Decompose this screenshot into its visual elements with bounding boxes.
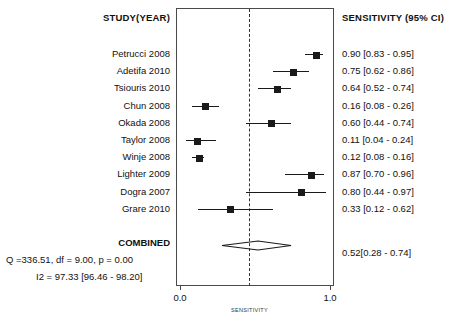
x-axis-title: SENSITIVITY — [231, 307, 268, 313]
study-label: Okada 2008 — [40, 117, 170, 128]
heterogeneity-i2-line: I2 = 97.33 [96.46 - 98.20] — [36, 271, 142, 282]
point-estimate-marker — [202, 103, 209, 110]
point-estimate-marker — [298, 189, 305, 196]
axis-tick — [180, 286, 181, 290]
axis-tick — [330, 286, 331, 290]
point-estimate-marker — [308, 172, 315, 179]
confidence-interval-line — [246, 192, 326, 193]
confidence-interval-line — [285, 174, 324, 175]
combined-label: COMBINED — [40, 237, 170, 248]
study-estimate: 0.16 [0.08 - 0.26] — [342, 100, 414, 111]
study-label: Grare 2010 — [40, 203, 170, 214]
column-header-sensitivity: SENSITIVITY (95% CI) — [342, 12, 444, 23]
axis-tick-label: 1.0 — [310, 292, 350, 303]
combined-estimate: 0.52[0.28 - 0.74] — [342, 247, 411, 258]
study-label: Tsiouris 2010 — [40, 82, 170, 93]
study-estimate: 0.60 [0.44 - 0.74] — [342, 117, 414, 128]
point-estimate-marker — [274, 86, 281, 93]
axis-tick-label: 0.0 — [160, 292, 200, 303]
study-label: Lighter 2009 — [40, 168, 170, 179]
study-estimate: 0.87 [0.70 - 0.96] — [342, 168, 414, 179]
study-label: Taylor 2008 — [40, 134, 170, 145]
study-estimate: 0.75 [0.62 - 0.86] — [342, 65, 414, 76]
study-estimate: 0.11 [0.04 - 0.24] — [342, 134, 413, 145]
study-label: Adetifa 2010 — [40, 65, 170, 76]
study-estimate: 0.64 [0.52 - 0.74] — [342, 82, 414, 93]
pooled-diamond — [220, 239, 293, 252]
study-label: Chun 2008 — [40, 100, 170, 111]
study-estimate: 0.80 [0.44 - 0.97] — [342, 186, 414, 197]
point-estimate-marker — [313, 52, 320, 59]
point-estimate-marker — [268, 120, 275, 127]
study-label: Winje 2008 — [40, 151, 170, 162]
point-estimate-marker — [194, 138, 201, 145]
heterogeneity-q-line: Q =336.51, df = 9.00, p = 0.00 — [6, 254, 133, 265]
point-estimate-marker — [227, 206, 234, 213]
column-header-study: STUDY(YEAR) — [74, 12, 170, 23]
confidence-interval-line — [198, 209, 273, 210]
study-estimate: 0.33 [0.12 - 0.62] — [342, 203, 414, 214]
confidence-interval-line — [186, 140, 216, 141]
study-estimate: 0.12 [0.08 - 0.16] — [342, 151, 414, 162]
forest-plot-figure: STUDY(YEAR) SENSITIVITY (95% CI) Petrucc… — [0, 0, 462, 320]
study-label: Dogra 2007 — [40, 186, 170, 197]
point-estimate-marker — [290, 69, 297, 76]
study-label: Petrucci 2008 — [40, 48, 170, 59]
study-estimate: 0.90 [0.83 - 0.95] — [342, 48, 414, 59]
point-estimate-marker — [196, 155, 203, 162]
